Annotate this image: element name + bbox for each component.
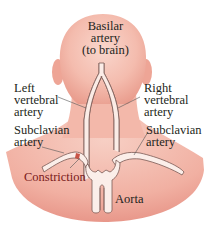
label-left-subclavian-artery: Subclavian artery (14, 124, 70, 148)
diagram-stage: Basilar artery (to brain) Left vertebral… (0, 0, 207, 234)
label-right-subclavian-artery: Subclavian artery (146, 124, 202, 148)
label-right-vertebral-artery: Right vertebral artery (144, 82, 188, 118)
label-left-vertebral-artery: Left vertebral artery (14, 82, 58, 118)
label-constriction: Constriction (24, 171, 86, 183)
label-basilar-artery: Basilar artery (to brain) (82, 20, 129, 56)
label-aorta: Aorta (115, 193, 143, 205)
